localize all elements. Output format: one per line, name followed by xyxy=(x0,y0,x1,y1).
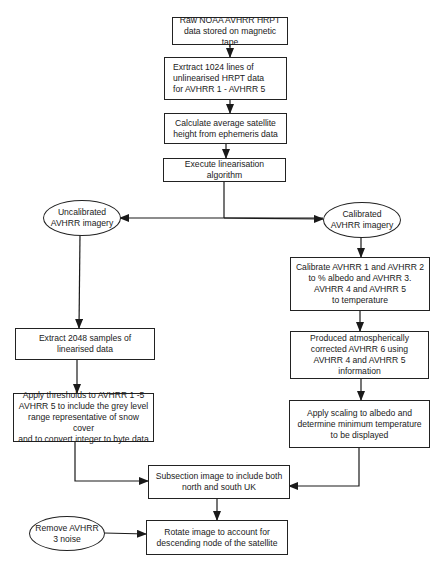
node-extract-lines: Exrtract 1024 lines of unlinearised HRPT… xyxy=(164,57,287,100)
node-apply-scaling: Apply scaling to albedo and determine mi… xyxy=(289,400,430,448)
node-calibrated: Calibrated AVHRR imagery xyxy=(323,202,401,238)
node-uncalibrated: Uncalibrated AVHRR imagery xyxy=(43,200,121,236)
node-calibrate-label: Calibrate AVHRR 1 and AVHRR 2 to % albed… xyxy=(296,262,424,306)
node-calc-height: Calculate average satellite height from … xyxy=(164,113,287,144)
node-calibrated-label: Calibrated AVHRR imagery xyxy=(331,209,393,231)
node-subsection: Subsection image to include both north a… xyxy=(148,465,290,499)
node-extract-samples-label: Extract 2048 samples of linearised data xyxy=(39,333,131,355)
node-raw-data: Raw NOAA AVHRR HRPT data stored on magne… xyxy=(172,17,288,45)
node-raw-data-label: Raw NOAA AVHRR HRPT data stored on magne… xyxy=(177,15,283,48)
node-thresholds: Apply thresholds to AVHRR 1 -5 AVHRR 5 t… xyxy=(13,393,154,442)
node-subsection-label: Subsection image to include both north a… xyxy=(156,471,283,493)
node-rotate-label: Rotate image to account for descending n… xyxy=(157,527,278,549)
node-uncalibrated-label: Uncalibrated AVHRR imagery xyxy=(51,207,113,229)
node-linearisation: Execute linearisation algorithm xyxy=(163,158,286,182)
node-atmos-corrected: Produced atmospherically corrected AVHRR… xyxy=(290,331,429,379)
node-calibrate: Calibrate AVHRR 1 and AVHRR 2 to % albed… xyxy=(290,257,430,311)
node-apply-scaling-label: Apply scaling to albedo and determine mi… xyxy=(297,408,421,441)
node-linearisation-label: Execute linearisation algorithm xyxy=(168,159,281,181)
node-extract-lines-label: Exrtract 1024 lines of unlinearised HRPT… xyxy=(173,62,265,95)
node-thresholds-label: Apply thresholds to AVHRR 1 -5 AVHRR 5 t… xyxy=(18,390,149,445)
node-remove-noise: Remove AVHRR 3 noise xyxy=(29,516,105,551)
node-atmos-corrected-label: Produced atmospherically corrected AVHRR… xyxy=(310,333,409,377)
node-calc-height-label: Calculate average satellite height from … xyxy=(173,118,278,140)
node-remove-noise-label: Remove AVHRR 3 noise xyxy=(35,523,98,545)
node-rotate: Rotate image to account for descending n… xyxy=(146,520,288,555)
node-extract-samples: Extract 2048 samples of linearised data xyxy=(15,328,155,360)
